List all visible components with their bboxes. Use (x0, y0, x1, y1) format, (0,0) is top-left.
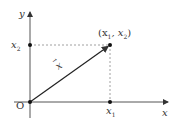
origin-label: O (16, 101, 24, 111)
vector-arrow (30, 47, 108, 103)
diagram-canvas (0, 0, 184, 126)
x-tick-dot (108, 100, 112, 104)
origin-dot (28, 100, 32, 104)
x-axis-label: x (162, 108, 168, 118)
y-tick-label: x2 (11, 40, 20, 54)
point-label: (x1, x2) (98, 28, 131, 42)
x-tick-label: x1 (106, 106, 115, 120)
y-axis-label: y (19, 9, 25, 19)
point-dot (108, 43, 112, 47)
y-tick-dot (28, 43, 32, 47)
